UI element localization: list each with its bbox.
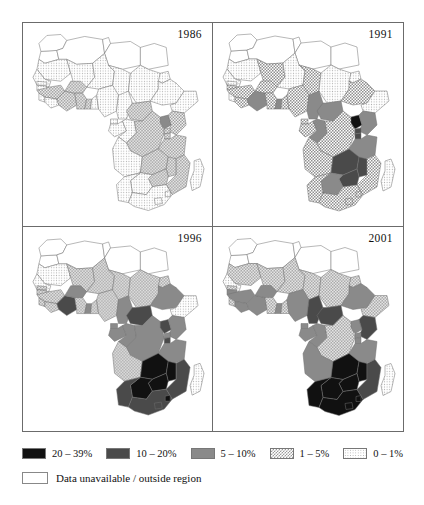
panel-year-label: 1996: [177, 232, 202, 244]
country-libya: [295, 246, 331, 274]
legend-swatch-5-10: [191, 448, 215, 459]
legend-item-1-5: 1 – 5%: [270, 448, 330, 459]
country-kenya: [168, 316, 186, 340]
country-kenya: [168, 111, 186, 135]
country-nigeria: [97, 85, 119, 117]
map-panel-1986: 1986: [23, 23, 213, 227]
legend-swatch-0-1: [343, 448, 367, 459]
country-swaziland: [165, 191, 170, 197]
country-nigeria: [287, 290, 309, 322]
country-madagascar: [381, 159, 395, 191]
africa-map-2001: [213, 227, 403, 431]
country-gambia: [227, 81, 237, 85]
country-ghana: [265, 298, 277, 314]
panel-year-label: 1986: [177, 28, 202, 40]
map-figure: 1986 1991 1996 2001: [22, 22, 404, 432]
country-swaziland: [356, 191, 361, 197]
legend-label-unavailable: Data unavailable / outside region: [56, 472, 201, 484]
country-libya: [105, 246, 141, 274]
legend-item-0-1: 0 – 1%: [343, 448, 403, 459]
country-kenya: [359, 316, 377, 340]
country-equatorial-guinea: [111, 324, 118, 329]
country-kenya: [359, 111, 377, 135]
legend-label-5-10: 5 – 10%: [221, 448, 256, 459]
country-swaziland: [356, 396, 361, 402]
country-madagascar: [381, 364, 395, 396]
country-burundi: [164, 133, 170, 139]
map-panel-2001: 2001: [213, 227, 403, 431]
country-burundi: [164, 337, 170, 343]
legend-item-20-39: 20 – 39%: [22, 448, 92, 459]
africa-map-1991: [213, 23, 403, 226]
country-lesotho: [154, 402, 162, 409]
country-burundi: [355, 338, 361, 344]
legend-swatch-unavailable: [22, 472, 48, 484]
legend-swatch-20-39: [22, 448, 46, 459]
country-gambia: [227, 286, 237, 290]
legend-class-row: 20 – 39% 10 – 20% 5 – 10% 1 – 5% 0 – 1%: [22, 448, 404, 459]
panel-year-label: 2001: [368, 232, 393, 244]
country-burundi: [355, 133, 361, 139]
africa-map-1996: [23, 227, 212, 431]
country-equatorial-guinea: [111, 119, 118, 124]
country-lesotho: [345, 403, 353, 410]
country-ghana: [75, 93, 87, 109]
country-madagascar: [190, 159, 204, 191]
country-gambia: [37, 81, 47, 85]
country-lesotho: [345, 198, 353, 205]
country-equatorial-guinea: [301, 324, 308, 329]
country-swaziland: [165, 395, 170, 401]
africa-map-1986: [23, 23, 212, 226]
legend-unavailable-row: Data unavailable / outside region: [22, 472, 404, 484]
legend-swatch-1-5: [270, 448, 294, 459]
panel-year-label: 1991: [368, 28, 393, 40]
country-egypt: [331, 248, 359, 274]
country-equatorial-guinea: [301, 119, 308, 124]
country-libya: [105, 41, 141, 69]
country-egypt: [140, 248, 168, 274]
legend-item-5-10: 5 – 10%: [191, 448, 256, 459]
country-nigeria: [97, 290, 119, 322]
country-nigeria: [287, 85, 309, 117]
country-madagascar: [190, 363, 204, 395]
country-egypt: [140, 43, 168, 69]
map-panel-1996: 1996: [23, 227, 213, 431]
country-gambia: [37, 286, 47, 290]
legend-label-10-20: 10 – 20%: [136, 448, 176, 459]
country-ghana: [265, 93, 277, 109]
map-panel-1991: 1991: [213, 23, 403, 227]
country-egypt: [331, 43, 359, 69]
legend-label-20-39: 20 – 39%: [52, 448, 92, 459]
legend: 20 – 39% 10 – 20% 5 – 10% 1 – 5% 0 – 1% …: [22, 448, 404, 484]
country-libya: [295, 41, 331, 69]
legend-item-10-20: 10 – 20%: [106, 448, 176, 459]
legend-label-1-5: 1 – 5%: [300, 448, 330, 459]
country-lesotho: [154, 198, 162, 205]
legend-label-0-1: 0 – 1%: [373, 448, 403, 459]
legend-swatch-10-20: [106, 448, 130, 459]
country-ghana: [75, 298, 87, 314]
